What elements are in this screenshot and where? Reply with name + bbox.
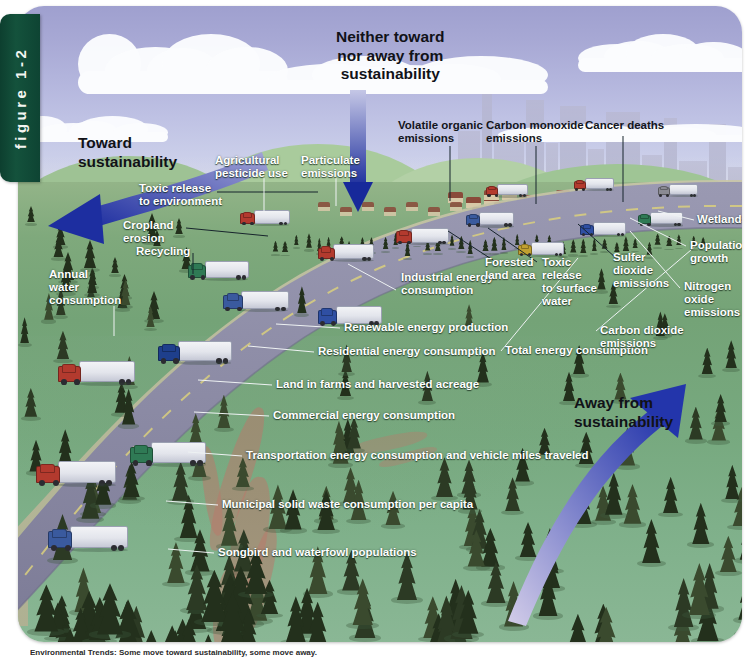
indicator-label: Volatile organic emissions [398,119,483,145]
leader-line [186,228,268,236]
indicator-label: Toxic release to surface water [542,256,597,308]
leader-line [348,264,396,290]
leader-line [166,501,218,505]
leader-line [248,346,314,352]
indicator-label: Renewable energy production [344,321,508,334]
indicator-label: Cropland erosion [123,219,173,245]
indicator-label: Annual water consumption [49,268,121,307]
direction-label-toward: Toward sustainability [78,134,177,171]
indicator-label: Cancer deaths [585,119,664,132]
leader-line [194,412,269,416]
direction-label-neither: Neither toward nor away from sustainabil… [336,28,445,84]
figure-caption: Environmental Trends: Some move toward s… [30,648,730,657]
indicator-label: Nitrogen oxide emissions [684,280,740,319]
indicator-label: Particulate emissions [301,154,360,180]
indicator-label: Toxic release to environment [139,182,222,208]
indicator-label: Carbon dioxide emissions [600,324,742,350]
indicator-label: Sulfer dioxide emissions [613,251,669,290]
indicator-label: Transportation energy consumption and ve… [246,449,589,462]
indicator-label: Forested land area [485,256,536,282]
indicator-label: Municipal solid waste consumption per ca… [222,498,473,511]
leader-line [198,380,272,385]
figure-number-text: figure 1-2 [12,47,29,150]
indicator-label: Carbon monoxide emissions [486,119,584,145]
indicator-label: Agricultural pesticide use [215,154,288,180]
direction-label-away: Away from sustainability [574,394,673,431]
leader-line [658,211,694,220]
illustration-panel: Toxic release to environmentCropland ero… [18,6,742,642]
indicator-label: Residential energy consumption [318,345,496,358]
indicator-label: Population growth [690,239,742,265]
leader-line [630,218,686,246]
indicator-label: Land in farms and harvested acreage [276,378,479,391]
indicator-label: Wetlands [697,213,742,226]
indicator-label: Industrial energy consumption [401,271,494,297]
leader-line [578,224,616,258]
indicator-label: Songbird and waterfowl populations [218,546,417,559]
indicator-label: Recycling [136,245,190,258]
figure-root: Toxic release to environmentCropland ero… [0,0,748,660]
leader-line [276,324,340,328]
figure-number-tab: figure 1-2 [0,14,40,182]
leader-line [188,452,242,456]
leader-line [168,549,214,553]
indicator-label: Commercial energy consumption [273,409,455,422]
